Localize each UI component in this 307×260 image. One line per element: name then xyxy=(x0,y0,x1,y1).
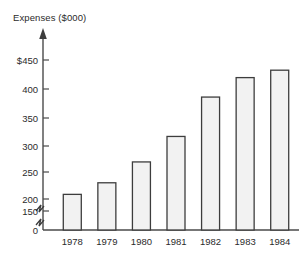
y-axis-tick-labels: $450 400 350 300 250 200 150 0 xyxy=(17,55,38,237)
bar xyxy=(202,97,220,230)
bar xyxy=(167,136,185,230)
x-tick-label: 1984 xyxy=(269,236,290,247)
x-tick-label: 1980 xyxy=(131,236,152,247)
y-tick-label: $450 xyxy=(17,55,38,66)
y-tick-label: 150 xyxy=(22,206,38,217)
y-tick-label: 350 xyxy=(22,113,38,124)
x-tick-label: 1981 xyxy=(165,236,186,247)
y-axis-arrow-icon xyxy=(39,28,47,39)
y-tick-label: 200 xyxy=(22,194,38,205)
bar-chart-figure: Expenses ($000) $450 400 350 xyxy=(0,0,307,260)
x-tick-label: 1982 xyxy=(200,236,221,247)
bar xyxy=(98,183,116,230)
x-tick-label: 1979 xyxy=(96,236,117,247)
bar xyxy=(63,194,81,230)
y-tick-label: 250 xyxy=(22,167,38,178)
bar xyxy=(132,162,150,230)
chart-plot-area: $450 400 350 300 250 200 150 0 197819791… xyxy=(0,0,307,260)
bar xyxy=(271,70,289,230)
y-tick-label-zero: 0 xyxy=(33,225,38,236)
y-axis xyxy=(39,28,47,230)
y-tick-label: 400 xyxy=(22,84,38,95)
bar xyxy=(236,78,254,230)
y-axis-ticks xyxy=(43,60,49,211)
bar-series xyxy=(63,70,288,230)
x-tick-label: 1983 xyxy=(235,236,256,247)
x-axis-tick-labels: 1978197919801981198219831984 xyxy=(62,236,291,247)
y-tick-label: 300 xyxy=(22,141,38,152)
x-tick-label: 1978 xyxy=(62,236,83,247)
